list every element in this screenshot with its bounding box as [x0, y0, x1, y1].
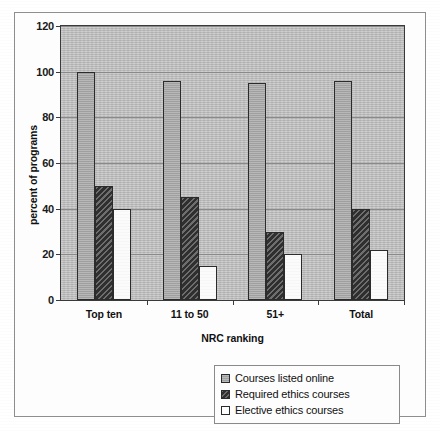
legend-swatch-elective-ethics-courses [221, 406, 230, 415]
bar[interactable] [284, 254, 302, 300]
x-tick-label-2: 51+ [267, 308, 285, 320]
legend-label-0: Courses listed online [235, 372, 334, 384]
bar[interactable] [370, 250, 388, 300]
x-tick-mark-2 [318, 300, 319, 305]
bar-group-2 [233, 26, 319, 300]
x-tick-mark-0 [147, 300, 148, 305]
x-tick-label-3: Total [349, 308, 373, 320]
bar[interactable] [181, 197, 199, 300]
bar[interactable] [163, 81, 181, 300]
legend-label-1: Required ethics courses [235, 388, 350, 400]
bar-group-1 [147, 26, 233, 300]
bar[interactable] [95, 186, 113, 300]
chart-figure: percent of programs 020406080100120Top t… [14, 12, 426, 417]
bar[interactable] [77, 72, 95, 300]
bar[interactable] [113, 209, 131, 300]
bar[interactable] [199, 266, 217, 300]
bar[interactable] [334, 81, 352, 300]
y-tick-label-20: 20 [42, 248, 54, 260]
y-tick-label-60: 60 [42, 157, 54, 169]
scanned-page: percent of programs 020406080100120Top t… [0, 0, 440, 431]
x-axis-title: NRC ranking [60, 332, 405, 344]
legend-label-2: Elective ethics courses [235, 404, 343, 416]
y-tick-label-0: 0 [48, 294, 54, 306]
bar-group-3 [318, 26, 404, 300]
y-axis-title-label: percent of programs [27, 125, 39, 225]
plot-area: 020406080100120Top ten11 to 5051+Total [60, 25, 405, 301]
x-tick-label-1: 11 to 50 [171, 308, 209, 320]
legend-item-0[interactable]: Courses listed online [221, 370, 393, 386]
bar-group-0 [61, 26, 147, 300]
y-tick-label-120: 120 [36, 20, 54, 32]
y-tick-label-100: 100 [36, 66, 54, 78]
legend-item-1[interactable]: Required ethics courses [221, 386, 393, 402]
bar[interactable] [266, 232, 284, 301]
y-tick-label-40: 40 [42, 203, 54, 215]
y-tick-mark-0 [56, 300, 61, 301]
y-tick-label-80: 80 [42, 111, 54, 123]
legend-item-2[interactable]: Elective ethics courses [221, 402, 393, 418]
legend-swatch-required-ethics-courses [221, 390, 230, 399]
chart-legend: Courses listed online Required ethics co… [214, 365, 400, 424]
x-tick-label-0: Top ten [86, 308, 122, 320]
bar[interactable] [352, 209, 370, 300]
bar[interactable] [248, 83, 266, 300]
legend-swatch-courses-listed-online [221, 374, 230, 383]
x-tick-mark-1 [233, 300, 234, 305]
y-axis-title: percent of programs [23, 37, 43, 313]
x-tick-mark-3 [404, 300, 405, 305]
